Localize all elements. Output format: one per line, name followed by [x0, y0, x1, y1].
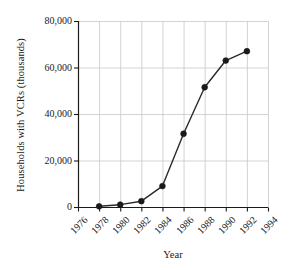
x-axis-tick-labels: 1976197819801982198419861988199019921994 — [0, 0, 289, 270]
x-axis-title: Year — [78, 249, 268, 261]
line-chart: Households with VCRs (thousands) 020,000… — [0, 0, 289, 270]
